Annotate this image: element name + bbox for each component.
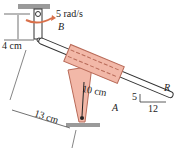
rod-label: R [164, 83, 170, 93]
bottom-ground [66, 123, 100, 127]
top-pin [36, 12, 41, 17]
pin-a [80, 116, 84, 120]
slope-triangle [140, 94, 166, 102]
angular-velocity-label: 5 rad/s [56, 9, 83, 19]
point-a-label: A [112, 103, 118, 113]
mechanism-figure: 5 rad/s B 4 cm 10 cm A 13 cm R 5 12 [0, 0, 188, 153]
point-b-label: B [58, 22, 64, 32]
vertical-offset-label: 4 cm [2, 41, 22, 51]
extension-line [10, 50, 26, 100]
mechanism-drawing [0, 0, 188, 153]
extension-line [72, 130, 76, 148]
slope-run-label: 12 [148, 104, 158, 114]
slope-rise-label: 5 [132, 92, 137, 102]
top-ground [18, 4, 50, 9]
